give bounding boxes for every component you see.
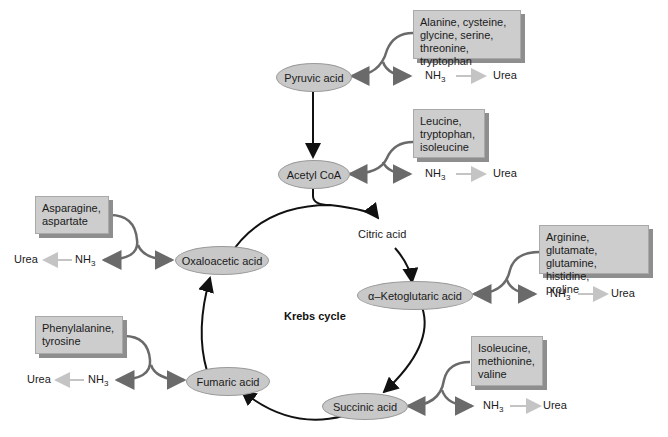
urea-label: Urea — [27, 373, 51, 385]
node-fumaric-acid: Fumaric acid — [186, 367, 270, 396]
node-citric-acid: Citric acid — [358, 228, 406, 240]
node-acetyl-coa: Acetyl CoA — [278, 160, 350, 189]
urea-label: Urea — [543, 399, 567, 411]
box-acetyl-amino-acids: Leucine, tryptophan, isoleucine — [413, 109, 485, 158]
nh3-label: NH3 — [483, 399, 503, 414]
nh3-label: NH3 — [550, 287, 570, 302]
box-line: tryptophan, — [420, 128, 478, 141]
box-pyruvic-amino-acids: Alanine, cysteine, glycine, serine, thre… — [413, 10, 521, 59]
box-fumaric-amino-acids: Phenylalanine, tyrosine — [35, 316, 123, 354]
node-succinic-acid: Succinic acid — [322, 393, 408, 420]
nh3-label: NH3 — [88, 373, 108, 388]
box-line: glycine, serine, — [420, 29, 514, 42]
node-oxaloacetic-acid: Oxaloacetic acid — [175, 246, 269, 275]
urea-label: Urea — [493, 167, 517, 179]
box-line: Asparagine, — [42, 202, 102, 215]
box-line: Phenylalanine, — [42, 322, 116, 335]
box-line: glutamine, histidine, — [546, 257, 642, 283]
box-line: Arginine, glutamate, — [546, 231, 642, 257]
box-line: aspartate — [42, 215, 102, 228]
box-line: methionine, — [478, 355, 536, 368]
box-succinic-amino-acids: Isoleucine, methionine, valine — [471, 336, 543, 386]
nh3-label: NH3 — [425, 167, 445, 182]
urea-label: Urea — [14, 253, 38, 265]
nh3-label: NH3 — [75, 253, 95, 268]
box-line: valine — [478, 368, 536, 381]
box-line: tyrosine — [42, 335, 116, 348]
box-line: Alanine, cysteine, — [420, 16, 514, 29]
box-line: isoleucine — [420, 141, 478, 154]
box-line: Leucine, — [420, 115, 478, 128]
box-ketoglutaric-amino-acids: Arginine, glutamate, glutamine, histidin… — [539, 225, 649, 274]
node-alpha-ketoglutaric-acid: α–Ketoglutaric acid — [357, 281, 473, 310]
node-pyruvic-acid: Pyruvic acid — [276, 63, 352, 92]
box-line: threonine, tryptophan — [420, 42, 514, 68]
cycle-title: Krebs cycle — [284, 310, 346, 322]
urea-label: Urea — [611, 287, 635, 299]
urea-label: Urea — [493, 69, 517, 81]
box-line: Isoleucine, — [478, 342, 536, 355]
nh3-label: NH3 — [425, 69, 445, 84]
box-oxaloacetic-amino-acids: Asparagine, aspartate — [35, 196, 109, 234]
